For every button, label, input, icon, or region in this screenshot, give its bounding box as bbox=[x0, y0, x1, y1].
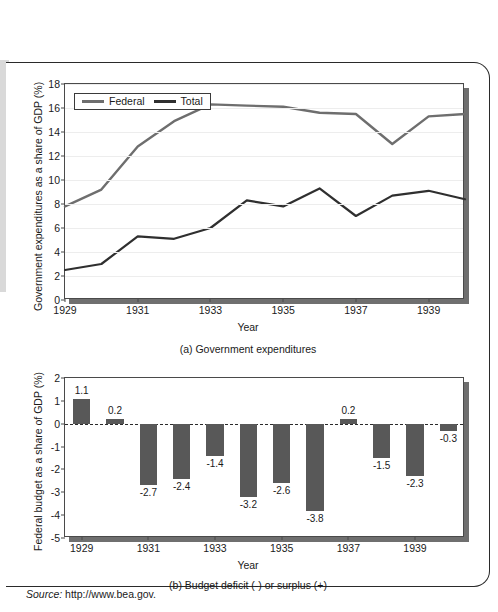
legend-item-federal: Federal bbox=[82, 96, 145, 107]
chart-b-ytick-mark bbox=[61, 538, 65, 539]
chart-a-ytick-mark bbox=[61, 180, 65, 181]
chart-a-xtick-label: 1929 bbox=[53, 305, 76, 316]
chart-b-xtick-label: 1935 bbox=[270, 543, 293, 554]
chart-b-xtick-label: 1933 bbox=[203, 543, 226, 554]
chart-a-ytick-mark bbox=[61, 252, 65, 253]
chart-b-ytick-label: -1 bbox=[51, 441, 60, 452]
chart-a-ytick-mark bbox=[61, 276, 65, 277]
chart-b-ytick-mark bbox=[61, 446, 65, 447]
chart-a-ytick-mark bbox=[61, 108, 65, 109]
chart-b-xtick-mark bbox=[281, 536, 282, 540]
bar-value-label: -3.8 bbox=[306, 514, 323, 524]
bar-value-label: 0.2 bbox=[341, 406, 355, 416]
chart-a-ytick-label: 12 bbox=[48, 151, 60, 162]
chart-a-xtick-mark bbox=[428, 298, 429, 302]
chart-a-ytick-label: 4 bbox=[54, 247, 60, 258]
chart-a-xtick-mark bbox=[283, 298, 284, 302]
legend-swatch-federal bbox=[82, 100, 104, 103]
bar-value-label: -1.5 bbox=[373, 461, 390, 471]
bar bbox=[173, 424, 190, 479]
chart-b-ytick-label: -5 bbox=[51, 533, 60, 544]
chart-a-gridline bbox=[65, 228, 463, 229]
chart-b-ytick-label: 2 bbox=[54, 373, 60, 384]
chart-b-ytick-mark bbox=[61, 492, 65, 493]
chart-b-y-axis-label: Federal budget as a share of GDP (%) bbox=[32, 372, 44, 551]
chart-b-ytick-label: -2 bbox=[51, 464, 60, 475]
chart-b-xtick-label: 1939 bbox=[403, 543, 426, 554]
chart-a-series-lines bbox=[65, 84, 465, 300]
chart-b-ytick-mark bbox=[61, 400, 65, 401]
chart-a-gridline bbox=[65, 180, 463, 181]
chart-a-gridline bbox=[65, 276, 463, 277]
chart-a-ytick-mark bbox=[61, 132, 65, 133]
chart-a-gridline bbox=[65, 132, 463, 133]
chart-b-xtick-label: 1937 bbox=[337, 543, 360, 554]
chart-a-xtick-label: 1931 bbox=[126, 305, 149, 316]
chart-a-xtick-mark bbox=[137, 298, 138, 302]
chart-a-ytick-label: 2 bbox=[54, 271, 60, 282]
chart-a-xtick-mark bbox=[65, 298, 66, 302]
bar bbox=[240, 424, 257, 497]
bar bbox=[206, 424, 223, 456]
chart-b-xtick-label: 1929 bbox=[70, 543, 93, 554]
chart-b-ytick-mark bbox=[61, 423, 65, 424]
chart-a-ytick-mark bbox=[61, 228, 65, 229]
bar-value-label: -0.3 bbox=[440, 434, 457, 444]
chart-a-ytick-mark bbox=[61, 204, 65, 205]
bar bbox=[273, 424, 290, 483]
chart-a-ytick-label: 8 bbox=[54, 199, 60, 210]
legend-label-federal: Federal bbox=[109, 96, 145, 107]
chart-government-expenditures: Government expenditures as a share of GD… bbox=[6, 63, 490, 363]
chart-a-ytick-label: 10 bbox=[48, 175, 60, 186]
chart-a-ytick-label: 14 bbox=[48, 127, 60, 138]
chart-b-xtick-mark bbox=[415, 536, 416, 540]
chart-a-xtick-label: 1933 bbox=[199, 305, 222, 316]
chart-a-ytick-mark bbox=[61, 156, 65, 157]
chart-a-gridline bbox=[65, 84, 463, 85]
bar-value-label: -2.6 bbox=[273, 486, 290, 496]
figure-card: Government expenditures as a share of GD… bbox=[6, 62, 490, 587]
chart-b-ytick-mark bbox=[61, 469, 65, 470]
bar bbox=[73, 399, 90, 424]
bar-value-label: -3.2 bbox=[240, 500, 257, 510]
chart-a-xtick-label: 1937 bbox=[344, 305, 367, 316]
chart-a-xtick-label: 1939 bbox=[417, 305, 440, 316]
chart-b-xtick-mark bbox=[148, 536, 149, 540]
source-label: Source: bbox=[26, 588, 62, 600]
chart-b-ytick-label: -4 bbox=[51, 510, 60, 521]
chart-a-ytick-label: 18 bbox=[48, 79, 60, 90]
chart-a-gridline bbox=[65, 252, 463, 253]
chart-a-y-axis-label: Government expenditures as a share of GD… bbox=[32, 82, 44, 311]
chart-b-ytick-label: 0 bbox=[54, 418, 60, 429]
chart-b-ytick-label: 1 bbox=[54, 396, 60, 407]
bar-value-label: 0.2 bbox=[108, 406, 122, 416]
chart-a-legend: Federal Total bbox=[74, 93, 211, 110]
bar-value-label: -1.4 bbox=[206, 459, 223, 469]
chart-a-gridline bbox=[65, 204, 463, 205]
bar bbox=[106, 419, 123, 424]
chart-a-gridline bbox=[65, 156, 463, 157]
chart-b-xtick-mark bbox=[215, 536, 216, 540]
chart-b-x-axis-label: Year bbox=[6, 559, 490, 571]
bar bbox=[306, 424, 323, 511]
bar bbox=[140, 424, 157, 486]
chart-b-ytick-label: -3 bbox=[51, 487, 60, 498]
chart-a-xtick-label: 1935 bbox=[271, 305, 294, 316]
chart-a-caption: (a) Government expenditures bbox=[6, 343, 490, 355]
chart-b-ytick-mark bbox=[61, 515, 65, 516]
chart-a-xtick-mark bbox=[210, 298, 211, 302]
chart-b-xtick-label: 1931 bbox=[137, 543, 160, 554]
chart-b-plot-area: 210-1-2-3-4-51.10.2-2.7-2.4-1.4-3.2-2.6-… bbox=[64, 377, 464, 537]
legend-swatch-total bbox=[154, 100, 176, 103]
source-note: Source: http://www.bea.gov. bbox=[26, 588, 156, 600]
bar-value-label: -2.3 bbox=[406, 479, 423, 489]
bar-value-label: 1.1 bbox=[75, 386, 89, 396]
bar bbox=[340, 419, 357, 424]
chart-a-ytick-label: 16 bbox=[48, 103, 60, 114]
chart-budget-deficit-surplus: Federal budget as a share of GDP (%) 210… bbox=[6, 363, 490, 588]
chart-a-ytick-label: 6 bbox=[54, 223, 60, 234]
chart-a-plot-area: 024681012141618192919311933193519371939 bbox=[64, 83, 464, 299]
chart-a-ytick-mark bbox=[61, 84, 65, 85]
bar-value-label: -2.7 bbox=[140, 488, 157, 498]
bar bbox=[406, 424, 423, 477]
